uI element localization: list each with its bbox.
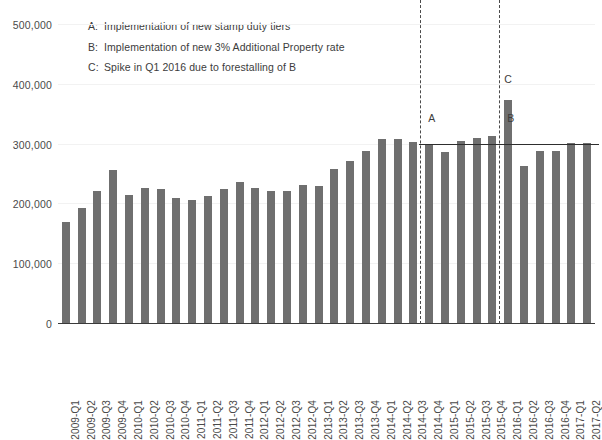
y-axis-tick-label: 100,000: [0, 258, 52, 270]
bar: [267, 191, 275, 324]
bar: [362, 151, 370, 324]
bar: [251, 188, 259, 324]
x-axis-tick-label: 2014-Q4: [433, 400, 444, 440]
x-axis-tick-label: 2016-Q1: [512, 400, 523, 440]
x-axis-tick-label: 2009-Q3: [101, 400, 112, 440]
point-annotation-label-c: C: [504, 73, 512, 85]
bar: [157, 189, 165, 324]
y-axis-tick-label: 500,000: [0, 19, 52, 31]
x-axis-tick-label: 2013-Q2: [338, 400, 349, 440]
bar: [567, 143, 575, 324]
bar: [283, 191, 291, 324]
bar: [441, 152, 449, 324]
x-axis-tick-label: 2017-Q2: [591, 400, 602, 440]
bar: [457, 141, 465, 324]
bar: [394, 139, 402, 324]
event-line-label-a: A: [428, 112, 435, 124]
y-axis-tick-label: 400,000: [0, 79, 52, 91]
x-axis-tick-label: 2014-Q2: [402, 400, 413, 440]
x-axis-tick-label: 2014-Q3: [417, 400, 428, 440]
bar: [346, 161, 354, 324]
reference-line-300000: [419, 144, 599, 145]
bar: [78, 208, 86, 324]
x-axis-tick-label: 2012-Q4: [307, 400, 318, 440]
bar: [204, 196, 212, 324]
bar: [552, 151, 560, 324]
x-axis-tick-label: 2010-Q2: [149, 400, 160, 440]
event-line-a: [420, 0, 421, 324]
bar: [109, 170, 117, 324]
bar: [330, 169, 338, 324]
x-axis-tick-label: 2015-Q4: [496, 400, 507, 440]
x-axis-tick-label: 2013-Q1: [323, 400, 334, 440]
x-axis-tick-label: 2011-Q2: [212, 400, 223, 439]
x-axis-tick-label: 2010-Q1: [133, 400, 144, 440]
x-axis-tick-label: 2017-Q1: [575, 400, 586, 440]
x-axis-tick-label: 2011-Q3: [228, 400, 239, 439]
x-axis-tick-label: 2015-Q1: [449, 400, 460, 440]
bar: [504, 100, 512, 324]
bar: [488, 136, 496, 324]
bar: [583, 143, 591, 324]
x-axis-tick-label: 2014-Q1: [386, 400, 397, 440]
x-axis-tick-label: 2010-Q4: [180, 400, 191, 440]
event-line-label-b: B: [507, 112, 514, 124]
event-line-b: [499, 0, 500, 324]
bar: [536, 151, 544, 324]
bar: [172, 198, 180, 324]
x-axis-line: [58, 323, 595, 324]
y-axis: 0100,000200,000300,000400,000500,000: [0, 0, 52, 402]
bar: [378, 139, 386, 324]
bar: [220, 189, 228, 324]
bar: [409, 142, 417, 324]
x-axis-tick-label: 2011-Q1: [196, 400, 207, 439]
bar-series: [58, 25, 595, 324]
x-axis-tick-label: 2016-Q3: [544, 400, 555, 440]
x-axis-tick-label: 2015-Q2: [465, 400, 476, 440]
x-axis-tick-label: 2013-Q3: [354, 400, 365, 440]
bar: [425, 145, 433, 324]
x-axis-tick-label: 2012-Q2: [275, 400, 286, 440]
bar: [299, 185, 307, 324]
bar: [141, 188, 149, 324]
x-axis-tick-label: 2016-Q4: [560, 400, 571, 440]
x-axis-tick-label: 2015-Q3: [481, 400, 492, 440]
x-axis-tick-label: 2012-Q3: [291, 400, 302, 440]
x-axis-tick-label: 2013-Q4: [370, 400, 381, 440]
x-axis-tick-label: 2012-Q1: [259, 400, 270, 440]
bar: [473, 138, 481, 324]
x-axis-tick-label: 2009-Q2: [86, 400, 97, 440]
plot-area: ABC: [58, 25, 595, 324]
bar: [520, 166, 528, 324]
y-axis-tick-label: 0: [0, 318, 52, 330]
bar: [93, 191, 101, 324]
bar: [125, 195, 133, 324]
bar: [236, 182, 244, 324]
x-axis-tick-label: 2009-Q4: [117, 400, 128, 440]
y-axis-tick-label: 300,000: [0, 139, 52, 151]
y-axis-tick-label: 200,000: [0, 198, 52, 210]
bar: [188, 200, 196, 324]
x-axis-tick-label: 2009-Q1: [70, 400, 81, 440]
bar: [315, 186, 323, 324]
x-axis-tick-label: 2010-Q3: [165, 400, 176, 440]
bar: [62, 222, 70, 324]
x-axis-tick-label: 2011-Q4: [244, 400, 255, 439]
x-axis: 2009-Q12009-Q22009-Q32009-Q42010-Q12010-…: [58, 328, 595, 402]
x-axis-tick-label: 2016-Q2: [528, 400, 539, 440]
